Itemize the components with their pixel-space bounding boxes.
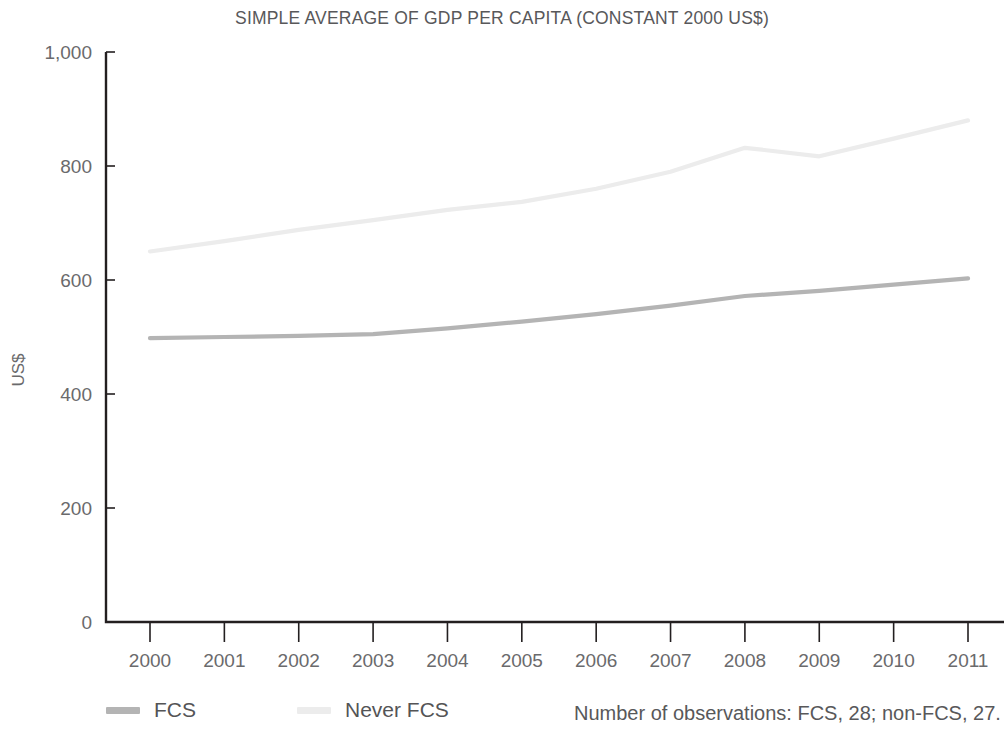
- series-line-fcs: [150, 278, 968, 338]
- x-axis-tick-label: 2008: [724, 650, 766, 671]
- x-axis-tick-labels: 2000200120022003200420052006200720082009…: [129, 650, 989, 671]
- x-axis-tick-label: 2007: [649, 650, 691, 671]
- axis-tick-marks: [106, 52, 968, 642]
- y-axis-title: US$: [9, 353, 28, 387]
- x-axis-tick-label: 2010: [872, 650, 914, 671]
- x-axis-tick-label: 2009: [798, 650, 840, 671]
- legend-label-fcs: FCS: [154, 698, 196, 722]
- x-axis-tick-label: 2004: [426, 650, 469, 671]
- plot-area: 02004006008001,000 200020012002200320042…: [0, 0, 1004, 700]
- y-axis-tick-label: 400: [60, 384, 92, 405]
- legend-item-fcs[interactable]: FCS: [106, 698, 196, 722]
- legend-label-never-fcs: Never FCS: [345, 698, 449, 722]
- y-axis-tick-labels: 02004006008001,000: [44, 42, 92, 633]
- chart-container: SIMPLE AVERAGE OF GDP PER CAPITA (CONSTA…: [0, 0, 1004, 734]
- observations-footnote: Number of observations: FCS, 28; non-FCS…: [574, 702, 1001, 725]
- y-axis-tick-label: 600: [60, 270, 92, 291]
- x-axis-tick-label: 2000: [129, 650, 171, 671]
- y-axis-tick-label: 200: [60, 498, 92, 519]
- y-axis-tick-label: 800: [60, 156, 92, 177]
- data-series-group: [150, 120, 968, 338]
- x-axis-tick-label: 2002: [278, 650, 320, 671]
- legend-swatch-never-fcs-icon: [297, 707, 331, 714]
- y-axis-tick-label: 0: [81, 612, 92, 633]
- x-axis-tick-label: 2001: [203, 650, 245, 671]
- y-axis-tick-label: 1,000: [44, 42, 92, 63]
- series-line-never-fcs: [150, 120, 968, 251]
- legend-item-never-fcs[interactable]: Never FCS: [297, 698, 449, 722]
- x-axis-tick-label: 2005: [501, 650, 543, 671]
- x-axis-tick-label: 2003: [352, 650, 394, 671]
- x-axis-tick-label: 2006: [575, 650, 617, 671]
- x-axis-tick-label: 2011: [948, 650, 989, 671]
- legend-swatch-fcs-icon: [106, 707, 140, 714]
